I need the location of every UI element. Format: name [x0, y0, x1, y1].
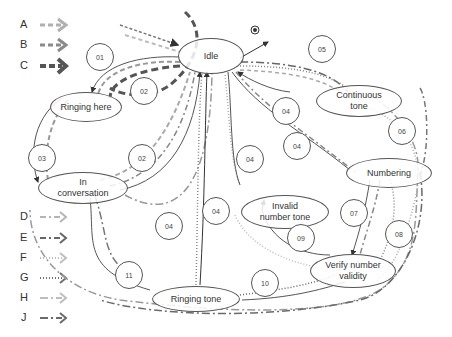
- state-ringing-here: Ringing here: [50, 92, 122, 122]
- transition-label: 04: [155, 212, 183, 240]
- transition-label: 06: [388, 117, 416, 145]
- legend-label-g: G: [20, 271, 29, 283]
- transition-label: 10: [251, 269, 279, 297]
- state-continuous-tone: Continuoustone: [316, 85, 402, 117]
- transition-label: 01: [86, 43, 114, 71]
- transition-label: 02: [128, 144, 156, 172]
- transition-label: 04: [202, 197, 230, 225]
- legend-label-j: J: [21, 311, 27, 323]
- transition-label: 03: [28, 144, 56, 172]
- legend-label-b: B: [20, 38, 27, 50]
- state-in-conversation: Inconversation: [38, 172, 128, 204]
- transition-label: 11: [115, 261, 143, 289]
- legend-label-f: F: [20, 251, 27, 263]
- legend-label-h: H: [20, 291, 28, 303]
- legend-label-d: D: [20, 210, 28, 222]
- transition-label: 08: [385, 220, 413, 248]
- transition-label: 04: [236, 145, 264, 173]
- transition-label: 02: [130, 77, 158, 105]
- state-numbering: Numbering: [346, 158, 432, 188]
- transition-label: 04: [272, 97, 300, 125]
- state-ringing-tone: Ringing tone: [152, 286, 240, 312]
- state-verify-number-validity: Verify numbervalidity: [310, 254, 396, 288]
- legend-label-a: A: [20, 18, 27, 30]
- state-idle: Idle: [178, 38, 244, 74]
- state-invalid-number-tone: Invalidnumber tone: [241, 195, 329, 229]
- transition-label: 09: [287, 224, 315, 252]
- transition-label: 07: [340, 199, 368, 227]
- legend-label-c: C: [20, 59, 28, 71]
- state-diagram: A B C D E F G H J Idle Ringing here Inco…: [0, 0, 452, 337]
- transition-label: 04: [283, 132, 311, 160]
- transition-label: 05: [308, 35, 336, 63]
- legend-label-e: E: [20, 231, 27, 243]
